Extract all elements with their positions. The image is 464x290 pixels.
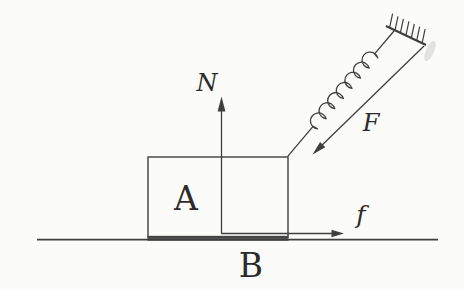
block-label: A [173, 179, 199, 218]
ground-label: B [239, 246, 263, 285]
block-a-outline [148, 157, 288, 237]
wall-hatching-icon [390, 14, 426, 44]
wall-shadow [422, 39, 438, 62]
normal-force-arrow [218, 97, 226, 234]
applied-force-label: F [362, 109, 381, 137]
force-diagram: N f F A B [0, 0, 464, 290]
physics-figure: N f F A B [0, 0, 464, 290]
spring-coil-icon [282, 26, 398, 159]
spring [282, 26, 398, 159]
applied-force-arrow [313, 46, 425, 155]
wall-surface-line [386, 26, 426, 45]
wall-anchor [386, 14, 438, 63]
normal-force-label: N [196, 69, 219, 97]
friction-force-label: f [354, 200, 369, 229]
normal-force-arrowhead-icon [218, 97, 226, 112]
friction-force-arrowhead-icon [332, 230, 345, 237]
